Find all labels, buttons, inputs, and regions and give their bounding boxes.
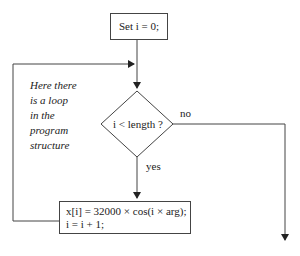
start-box: Set i = 0; [110, 13, 168, 40]
process-box: x[i] = 32000 × cos(i × arg); i = i + 1; [59, 201, 191, 234]
annotation-line: Here there [30, 78, 77, 93]
process-line-1: x[i] = 32000 × cos(i × arg); [66, 205, 186, 218]
annotation-line: is a loop [30, 93, 77, 108]
decision-label: i < length ? [113, 118, 163, 131]
loop-annotation: Here there is a loop in the program stru… [30, 78, 77, 153]
start-box-label: Set i = 0; [119, 20, 159, 33]
yes-label: yes [146, 160, 161, 173]
no-label: no [180, 107, 191, 120]
annotation-line: in the [30, 108, 77, 123]
annotation-line: program [30, 123, 77, 138]
process-line-2: i = i + 1; [66, 218, 104, 231]
annotation-line: structure [30, 138, 77, 153]
